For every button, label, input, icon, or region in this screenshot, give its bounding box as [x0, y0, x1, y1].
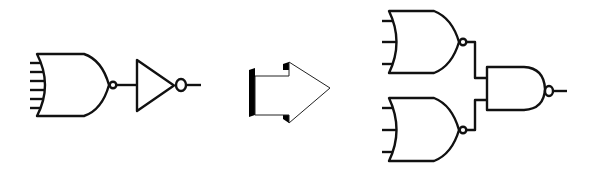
left-nor-bubble — [110, 82, 117, 89]
transform-arrow-icon — [249, 62, 330, 123]
nand-bubble — [545, 86, 553, 96]
interconnect-wires — [467, 42, 488, 130]
logic-diagram: NOR-with-inverter equivalent to NOR-NOR-… — [0, 0, 597, 173]
top-nor-bubble — [460, 39, 467, 46]
nand-gate — [487, 67, 567, 110]
bottom-nor-gate — [382, 98, 466, 161]
inverter-bubble — [176, 79, 186, 91]
top-nor-gate — [382, 11, 466, 73]
left-nor-gate — [30, 54, 137, 116]
bottom-nor-bubble — [460, 127, 467, 134]
inverter-gate — [137, 60, 201, 111]
